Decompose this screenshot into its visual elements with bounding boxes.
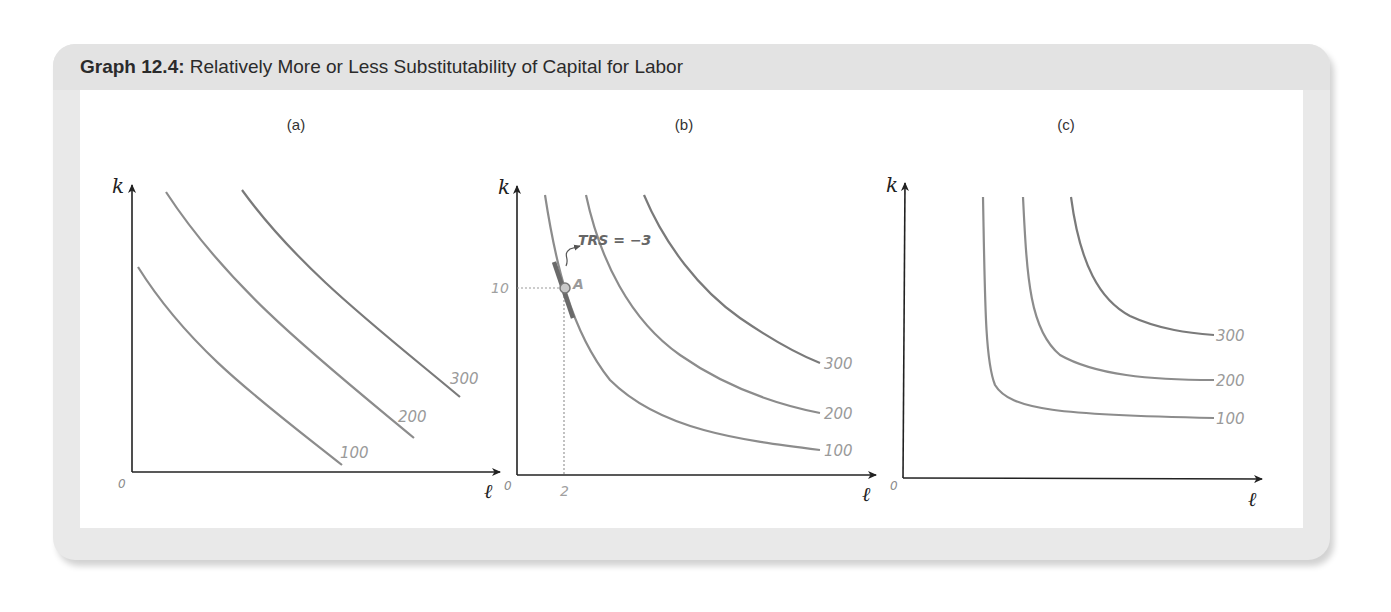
panel-b: (b) k ℓ 0 10 2 A TRS = −3 100 200 300 bbox=[491, 116, 876, 506]
panel-a-isoquant-200 bbox=[166, 192, 414, 438]
panel-c-y-label: k bbox=[886, 173, 898, 197]
panel-b-label-100: 100 bbox=[824, 442, 853, 460]
panel-b-label-300: 300 bbox=[824, 355, 853, 373]
panel-a-x-label: ℓ bbox=[484, 479, 493, 503]
panel-a-label: (a) bbox=[287, 116, 305, 133]
panel-c-y-axis bbox=[903, 183, 905, 478]
isoquant-charts: (a) k ℓ 0 100 200 300 (b) k ℓ 0 10 2 A bbox=[0, 0, 1391, 612]
panel-a-isoquant-100 bbox=[138, 267, 342, 465]
panel-c-label: (c) bbox=[1057, 116, 1075, 133]
panel-a-label-200: 200 bbox=[398, 408, 427, 426]
panel-c-origin: 0 bbox=[890, 479, 898, 493]
panel-b-y-label: k bbox=[498, 175, 510, 199]
panel-b-x-label: ℓ bbox=[862, 482, 871, 506]
panel-a-isoquant-300 bbox=[242, 190, 460, 397]
panel-b-isoquant-200 bbox=[586, 195, 820, 413]
trs-label: TRS = −3 bbox=[578, 232, 651, 248]
k-tick-10: 10 bbox=[491, 280, 509, 296]
panel-a-label-300: 300 bbox=[450, 370, 479, 388]
l-tick-2: 2 bbox=[560, 483, 569, 499]
panel-a-origin: 0 bbox=[118, 477, 126, 491]
panel-b-origin: 0 bbox=[504, 479, 512, 493]
panel-c-isoquant-200 bbox=[1023, 197, 1214, 380]
point-a-label: A bbox=[572, 276, 584, 292]
panel-c-label-200: 200 bbox=[1216, 372, 1245, 390]
panel-c-x-axis bbox=[903, 478, 1262, 479]
point-a-marker bbox=[560, 283, 570, 293]
panel-a: (a) k ℓ 0 100 200 300 bbox=[112, 116, 500, 503]
panel-c: (c) k ℓ 0 100 200 300 bbox=[886, 116, 1262, 511]
panel-c-isoquant-300 bbox=[1071, 197, 1214, 335]
panel-a-label-100: 100 bbox=[340, 444, 369, 462]
panel-c-x-label: ℓ bbox=[1248, 487, 1257, 511]
panel-c-isoquant-100 bbox=[983, 197, 1214, 418]
panel-c-label-300: 300 bbox=[1216, 327, 1245, 345]
panel-b-label: (b) bbox=[675, 116, 693, 133]
panel-b-isoquant-300 bbox=[644, 195, 820, 363]
panel-b-label-200: 200 bbox=[824, 405, 853, 423]
panel-a-y-label: k bbox=[112, 174, 124, 198]
trs-callout-arrow bbox=[566, 246, 580, 266]
panel-c-label-100: 100 bbox=[1216, 410, 1245, 428]
